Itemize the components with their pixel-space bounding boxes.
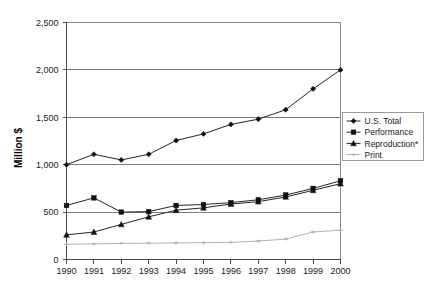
- line-chart: 05001,0001,5002,0002,500 199019911992199…: [0, 0, 440, 286]
- legend-item-label: Performance: [365, 127, 414, 137]
- chart-canvas: 05001,0001,5002,0002,500 199019911992199…: [0, 0, 440, 286]
- legend-item-label: U.S. Total: [365, 116, 402, 126]
- x-axis-tick-label: 1998: [276, 266, 296, 276]
- y-axis-tick-label: 1,500: [36, 113, 59, 123]
- x-axis-tick-label: 1999: [303, 266, 323, 276]
- x-axis-tick-label: 1994: [166, 266, 186, 276]
- x-axis-tick-label: 1995: [193, 266, 213, 276]
- x-axis-tick-label: 1992: [111, 266, 131, 276]
- data-point-1-2: [119, 210, 124, 215]
- y-axis-tick-label: 2,500: [36, 18, 59, 28]
- data-point-1-0: [64, 203, 69, 208]
- y-axis-title: Million $: [13, 128, 24, 168]
- y-axis-tick-label: 0: [53, 255, 58, 265]
- x-axis-tick-label: 1991: [84, 266, 104, 276]
- y-axis-title-label: Million $: [13, 128, 24, 168]
- x-axis-tick-label: 1997: [248, 266, 268, 276]
- x-axis-tick-labels: 1990199119921993199419951996199719981999…: [56, 266, 350, 276]
- x-axis-tick-label: 1993: [139, 266, 159, 276]
- y-axis-tick-label: 1,000: [36, 160, 59, 170]
- data-point-1-3: [146, 209, 151, 214]
- y-axis-tick-label: 2,000: [36, 65, 59, 75]
- data-point-legend-1: [351, 130, 356, 135]
- x-axis-tick-label: 2000: [330, 266, 350, 276]
- chart-legend: U.S. TotalPerformanceReproduction*Print: [343, 113, 424, 161]
- legend-item-label: Print: [365, 150, 383, 160]
- x-axis-tick-label: 1990: [56, 266, 76, 276]
- data-point-1-1: [92, 196, 97, 201]
- y-axis-tick-label: 500: [43, 207, 58, 217]
- legend-item-label: Reproduction*: [365, 139, 420, 149]
- x-axis-tick-label: 1996: [221, 266, 241, 276]
